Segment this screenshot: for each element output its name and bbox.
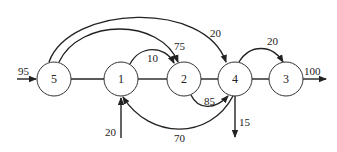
edge-4-1 <box>123 96 233 129</box>
network-diagram: 5 1 2 4 3 95 75 20 10 85 20 70 20 15 100 <box>0 0 337 152</box>
flow-label-4-3: 20 <box>267 35 279 47</box>
edge-5-2 <box>59 29 178 62</box>
node-label: 1 <box>118 72 124 86</box>
node-label: 4 <box>232 72 238 86</box>
node-4: 4 <box>218 62 252 96</box>
flow-label-4-1: 70 <box>174 132 186 144</box>
node-3: 3 <box>269 62 303 96</box>
node-5: 5 <box>37 62 71 96</box>
flow-label-2-4: 85 <box>204 95 216 107</box>
node-label: 5 <box>51 72 57 86</box>
flow-label-out-4: 15 <box>239 116 251 128</box>
flow-label-5-2: 75 <box>174 40 186 52</box>
edge-4-3 <box>239 49 283 63</box>
node-2: 2 <box>167 62 201 96</box>
node-1: 1 <box>104 62 138 96</box>
flow-label-5-4: 20 <box>210 27 222 39</box>
node-label: 3 <box>283 72 289 86</box>
flow-label-1-2: 10 <box>147 52 159 64</box>
node-label: 2 <box>181 72 187 86</box>
flow-label-in-5: 95 <box>18 65 30 77</box>
flow-label-in-1: 20 <box>105 126 117 138</box>
flow-label-out-3: 100 <box>304 65 321 77</box>
